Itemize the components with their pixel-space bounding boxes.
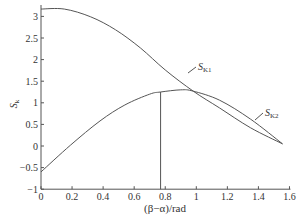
- series-label-subscript: K2: [270, 112, 279, 120]
- x-tick-label: 1.4: [252, 191, 265, 202]
- y-tick-label: 3: [33, 11, 38, 22]
- ticks: 00.20.40.60.811.21.41.6−1−0.500.511.522.…: [20, 11, 296, 202]
- series-line-s-k2: [41, 90, 282, 172]
- y-tick-label: 0.5: [26, 119, 39, 130]
- series-label-s-k1: SK1: [198, 61, 212, 74]
- series-label-leader: [188, 67, 196, 73]
- chart: 00.20.40.60.811.21.41.6−1−0.500.511.522.…: [0, 0, 299, 219]
- x-tick-label: 0.6: [128, 191, 141, 202]
- series-line-s-k1: [41, 8, 282, 143]
- x-tick-label: 0.8: [159, 191, 172, 202]
- series-label-leader: [255, 113, 263, 120]
- x-tick-label: 1.2: [221, 191, 234, 202]
- series-label-s-k2: SK2: [265, 107, 279, 120]
- labels: SK1SK2Sk(β−α)/rad: [8, 61, 279, 215]
- x-tick-label: 0.2: [66, 191, 79, 202]
- y-tick-label: −1: [27, 184, 38, 195]
- axes: [41, 5, 290, 189]
- x-tick-label: 0: [39, 191, 44, 202]
- y-tick-label: 0: [33, 141, 38, 152]
- y-tick-label: −0.5: [20, 162, 38, 173]
- x-tick-label: 1: [194, 191, 199, 202]
- x-tick-label: 0.4: [97, 191, 110, 202]
- y-tick-label: 2: [33, 54, 38, 65]
- data-lines: [41, 8, 282, 189]
- y-tick-label: 1.5: [26, 76, 39, 87]
- series-label-subscript: K1: [203, 66, 212, 74]
- y-axis-label-subscript: k: [13, 99, 21, 103]
- y-tick-label: 2.5: [26, 33, 39, 44]
- x-tick-label: 1.6: [283, 191, 296, 202]
- y-tick-label: 1: [33, 97, 38, 108]
- y-axis-label: Sk: [8, 99, 21, 108]
- x-axis-label: (β−α)/rad: [144, 202, 186, 215]
